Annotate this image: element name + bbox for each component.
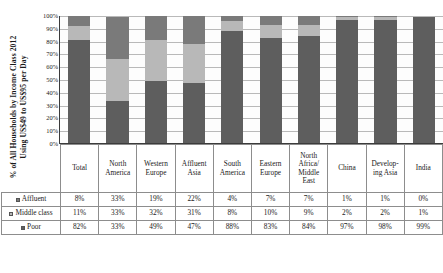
bar-segment-poor bbox=[298, 36, 320, 143]
bar-segment-middle-class bbox=[68, 26, 90, 40]
table-cell: 82% bbox=[61, 221, 99, 235]
column-header: Total bbox=[61, 145, 99, 193]
bar-slot bbox=[213, 16, 251, 143]
bar-segment-middle-class bbox=[260, 25, 282, 38]
y-tick-label: 50% bbox=[46, 77, 58, 83]
table-cell: 7% bbox=[290, 193, 328, 207]
y-tick-label: 10% bbox=[46, 128, 58, 134]
legend-swatch-icon bbox=[9, 212, 13, 216]
table-cell: 4% bbox=[213, 193, 251, 207]
y-tick-label: 30% bbox=[46, 102, 58, 108]
bar-slot bbox=[98, 16, 136, 143]
table-cell: 8% bbox=[213, 207, 251, 221]
stacked-bar[interactable] bbox=[336, 16, 358, 143]
table-cell: 31% bbox=[175, 207, 213, 221]
stacked-bar[interactable] bbox=[374, 16, 396, 143]
bar-segment-affluent bbox=[298, 16, 320, 25]
table-cell: 98% bbox=[366, 221, 404, 235]
table-cell: 88% bbox=[213, 221, 251, 235]
column-header: NorthAmerica bbox=[99, 145, 137, 193]
column-header: Develop-ing Asia bbox=[366, 145, 404, 193]
bar-segment-affluent bbox=[106, 17, 128, 59]
table-cell: 47% bbox=[175, 221, 213, 235]
y-tick-label: 70% bbox=[46, 51, 58, 57]
table-cell: 8% bbox=[61, 193, 99, 207]
legend-swatch-icon bbox=[16, 198, 20, 202]
y-tick-label: 60% bbox=[46, 64, 58, 70]
y-tick-label: 80% bbox=[46, 38, 58, 44]
table-cell: 97% bbox=[328, 221, 366, 235]
bar-segment-affluent bbox=[260, 16, 282, 25]
bar-segment-middle-class bbox=[221, 21, 243, 31]
bar-segment-middle-class bbox=[298, 25, 320, 36]
table-cell: 84% bbox=[290, 221, 328, 235]
legend-swatch-icon bbox=[21, 226, 25, 230]
y-tick-label: 100% bbox=[43, 13, 58, 19]
y-tick-label: 40% bbox=[46, 90, 58, 96]
table-row: Middle class11%33%32%31%8%10%9%2%2%1% bbox=[2, 207, 443, 221]
plot-canvas bbox=[59, 16, 443, 144]
y-tick-label: 90% bbox=[46, 26, 58, 32]
bar-segment-poor bbox=[336, 20, 358, 143]
stacked-bar[interactable] bbox=[145, 16, 167, 143]
column-header: China bbox=[328, 145, 366, 193]
bar-segment-affluent bbox=[145, 16, 167, 40]
table-cell: 99% bbox=[404, 221, 442, 235]
table-cell: 2% bbox=[328, 207, 366, 221]
stacked-bar[interactable] bbox=[106, 16, 128, 143]
bar-slot bbox=[60, 16, 98, 143]
table-cell: 22% bbox=[175, 193, 213, 207]
data-table: TotalNorthAmericaWesternEuropeAffluentAs… bbox=[1, 144, 443, 235]
stacked-bar[interactable] bbox=[413, 16, 435, 143]
table-cell: 1% bbox=[328, 193, 366, 207]
stacked-bar[interactable] bbox=[221, 16, 243, 143]
column-header: India bbox=[404, 145, 442, 193]
table-cell: 83% bbox=[251, 221, 289, 235]
table-cell: 10% bbox=[251, 207, 289, 221]
bar-slot bbox=[251, 16, 289, 143]
stacked-bar[interactable] bbox=[260, 16, 282, 143]
bar-segment-poor bbox=[260, 38, 282, 143]
column-header: SouthAmerica bbox=[213, 145, 251, 193]
bar-segment-middle-class bbox=[183, 44, 205, 83]
bar-segment-poor bbox=[145, 81, 167, 143]
table-cell: 7% bbox=[251, 193, 289, 207]
column-header: NorthAfrica/MiddleEast bbox=[290, 145, 328, 193]
bar-segment-middle-class bbox=[145, 40, 167, 81]
data-table-wrapper: TotalNorthAmericaWesternEuropeAffluentAs… bbox=[1, 144, 442, 235]
bar-segment-middle-class bbox=[106, 59, 128, 101]
table-cell: 32% bbox=[137, 207, 175, 221]
y-tick-label: 20% bbox=[46, 115, 58, 121]
bar-segment-poor bbox=[106, 101, 128, 143]
table-header-row: TotalNorthAmericaWesternEuropeAffluentAs… bbox=[2, 145, 443, 193]
stacked-bar[interactable] bbox=[298, 16, 320, 143]
legend-label-text: Poor bbox=[27, 223, 41, 232]
stacked-bar[interactable] bbox=[183, 16, 205, 143]
bar-segment-poor bbox=[183, 83, 205, 143]
table-cell: 33% bbox=[99, 193, 137, 207]
column-header: AffluentAsia bbox=[175, 145, 213, 193]
bar-slot bbox=[290, 16, 328, 143]
table-cell: 19% bbox=[137, 193, 175, 207]
column-header: WesternEurope bbox=[137, 145, 175, 193]
legend-label-text: Affluent bbox=[22, 195, 47, 204]
table-cell: 11% bbox=[61, 207, 99, 221]
table-row: Affluent8%33%19%22%4%7%7%1%1%0% bbox=[2, 193, 443, 207]
table-row: Poor82%33%49%47%88%83%84%97%98%99% bbox=[2, 221, 443, 235]
table-cell: 2% bbox=[366, 207, 404, 221]
bar-segment-affluent bbox=[183, 16, 205, 44]
legend-row-label: Poor bbox=[2, 221, 61, 235]
bar-slot bbox=[175, 16, 213, 143]
bar-segment-poor bbox=[221, 31, 243, 143]
stacked-bar[interactable] bbox=[68, 16, 90, 143]
bar-segment-poor bbox=[413, 17, 435, 143]
y-axis-tick-labels: 100%90%80%70%60%50%40%30%20%10%0% bbox=[38, 16, 59, 144]
table-corner-cell bbox=[2, 145, 61, 193]
bar-slot bbox=[366, 16, 404, 143]
table-cell: 33% bbox=[99, 221, 137, 235]
legend-row-label: Affluent bbox=[2, 193, 61, 207]
bar-segment-poor bbox=[374, 20, 396, 143]
column-header: EasternEurope bbox=[251, 145, 289, 193]
bar-series-container bbox=[60, 16, 443, 143]
bar-slot bbox=[328, 16, 366, 143]
